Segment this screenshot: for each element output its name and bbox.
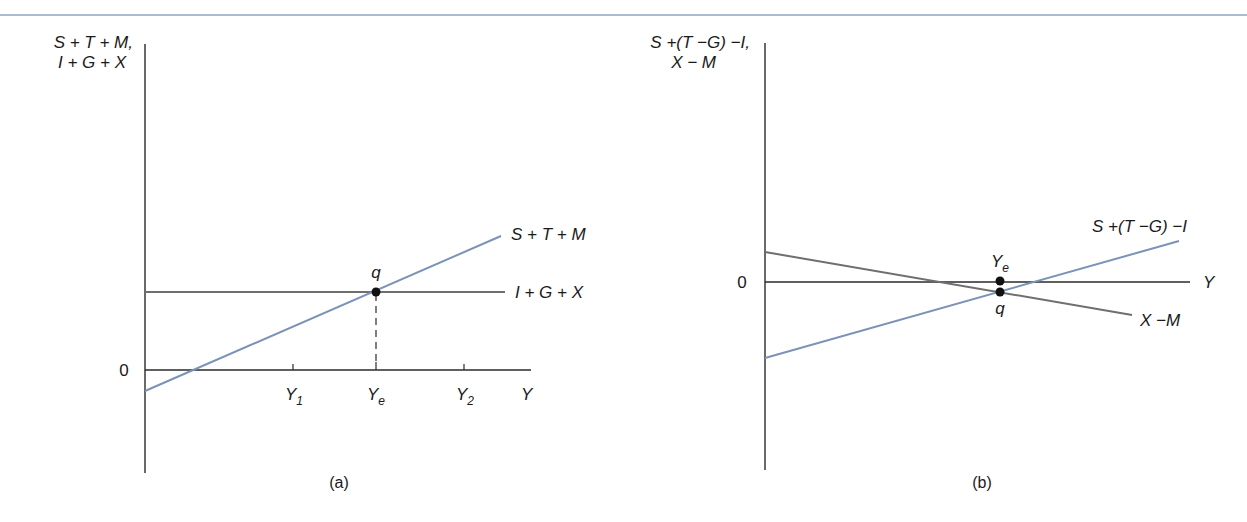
panel-b-point-ye-label: Ye [991, 252, 1009, 275]
panel-a-curve-upward [145, 236, 501, 391]
panel-a-curve-flat-label: I + G + X [515, 283, 584, 302]
panel-b-caption: (b) [972, 474, 992, 491]
panel-a-point-q [372, 288, 381, 297]
panel-a-zero-label: 0 [119, 361, 128, 380]
panel-b-point-q [996, 288, 1005, 297]
panel-b-zero-label: 0 [737, 273, 746, 292]
panel-b-x-label: Y [1203, 273, 1216, 292]
panel-a-ylabel-line1: S + T + M, [54, 33, 133, 52]
panel-b-ylabel-line1: S +(T −G) −I, [650, 33, 750, 52]
panel-a: S + T + M, I + G + X 0 Y1 Ye Y2 Y q S + … [54, 33, 587, 491]
panel-a-tick-label-y1: Y1 [285, 385, 303, 408]
panel-b-point-q-label: q [995, 299, 1005, 318]
panel-a-tick-label-y2: Y2 [456, 385, 474, 408]
panel-b-curve-upward [765, 241, 1179, 358]
panel-b: S +(T −G) −I, X − M 0 Y Ye q S +(T −G) −… [650, 33, 1216, 491]
figure: S + T + M, I + G + X 0 Y1 Ye Y2 Y q S + … [0, 0, 1247, 522]
panel-b-curve-downward-label: X −M [1139, 311, 1181, 330]
panel-a-curve-upward-label: S + T + M [511, 225, 586, 244]
panel-b-point-ye [996, 277, 1005, 286]
panel-b-ylabel-line2: X − M [670, 53, 717, 72]
panel-a-tick-label-ye: Ye [367, 385, 385, 408]
panel-a-point-q-label: q [371, 263, 381, 282]
panel-b-curve-upward-label: S +(T −G) −I [1092, 217, 1187, 236]
panel-a-ylabel-line2: I + G + X [58, 53, 127, 72]
panel-a-x-label: Y [521, 385, 534, 404]
panel-a-caption: (a) [329, 474, 349, 491]
